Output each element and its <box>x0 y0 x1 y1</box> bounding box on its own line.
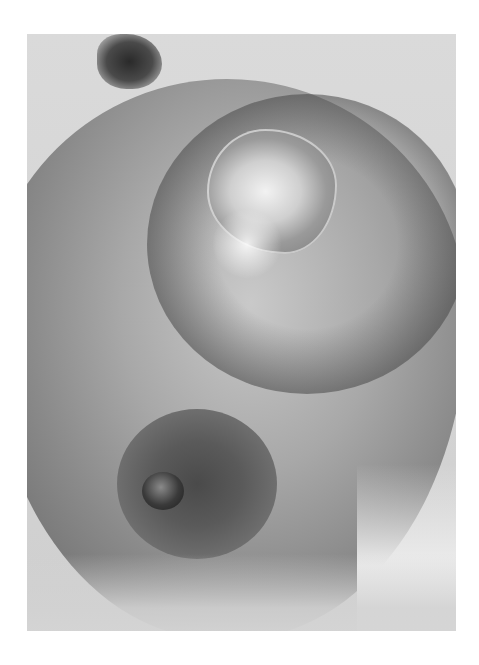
inframammary-fold <box>27 554 456 631</box>
clinical-photograph <box>27 34 456 631</box>
nipple <box>142 472 184 510</box>
areola <box>117 409 277 559</box>
light-reflection <box>212 209 282 279</box>
